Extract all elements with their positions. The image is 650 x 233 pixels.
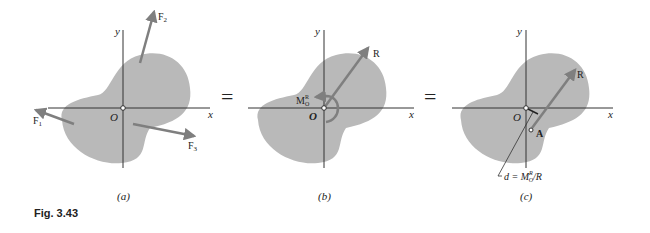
y-axis-label-a: y bbox=[114, 25, 120, 37]
x-axis-label-b: x bbox=[408, 108, 414, 120]
panel-b: y x O R MRO (b) bbox=[248, 25, 414, 203]
panel-c: y x O A R d = MRO/R (c) bbox=[452, 25, 613, 203]
panel-label-b: (b) bbox=[318, 190, 331, 203]
equals-sign-2: = bbox=[424, 84, 436, 109]
force-f1-label: F1 bbox=[33, 115, 43, 128]
y-axis-label-b: y bbox=[314, 25, 320, 37]
origin-point-a bbox=[121, 106, 126, 111]
point-a-label: A bbox=[536, 128, 544, 139]
origin-label-b: O bbox=[309, 110, 317, 122]
force-f3-label: F3 bbox=[188, 140, 198, 153]
y-axis-label-c: y bbox=[516, 25, 522, 37]
panel-label-c: (c) bbox=[520, 190, 533, 203]
resultant-label-b: R bbox=[373, 48, 380, 59]
figure-caption: Fig. 3.43 bbox=[34, 207, 78, 219]
force-f2-label: F2 bbox=[158, 11, 168, 24]
point-a bbox=[529, 128, 533, 132]
x-axis-label-a: x bbox=[207, 108, 213, 120]
distance-label: d = MRO/R bbox=[504, 170, 542, 183]
panel-a: y x O F1 F2 F3 (a) bbox=[33, 11, 213, 203]
equals-sign-1: = bbox=[221, 84, 233, 109]
x-axis-label-c: x bbox=[607, 108, 613, 120]
origin-point-b bbox=[322, 106, 327, 111]
figure-canvas: y x O F1 F2 F3 (a) = y x O R MRO (b) = y bbox=[0, 0, 650, 233]
origin-point-c bbox=[524, 106, 529, 111]
moment-label: MRO bbox=[296, 94, 310, 107]
origin-label-a: O bbox=[110, 111, 118, 123]
resultant-label-c: R bbox=[577, 69, 584, 80]
origin-label-c: O bbox=[513, 111, 521, 123]
panel-label-a: (a) bbox=[117, 190, 130, 203]
